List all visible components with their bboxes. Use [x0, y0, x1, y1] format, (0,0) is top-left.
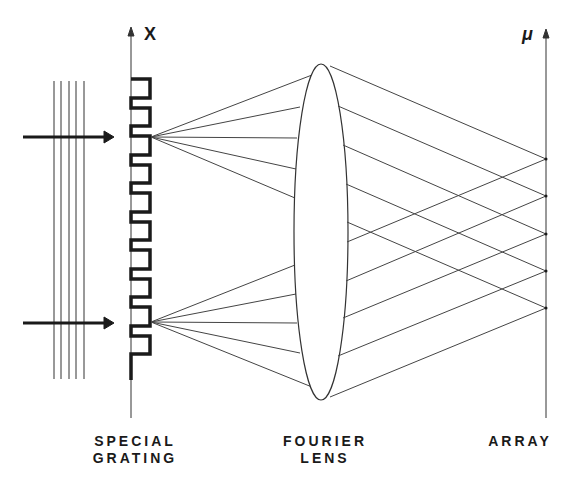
array-axis-label: μ	[522, 24, 533, 45]
focused-rays-lower	[330, 159, 546, 397]
fourier-lens	[294, 64, 348, 400]
diffracted-rays-upper	[151, 75, 312, 198]
array-label-line1: ARRAY	[465, 433, 572, 450]
lens-label: FOURIER LENS	[265, 433, 385, 467]
grating-profile	[131, 79, 150, 380]
incident-wavefronts	[54, 81, 84, 379]
lens-label-line1: FOURIER	[265, 433, 385, 450]
lens-label-line2: LENS	[265, 450, 385, 467]
grating-axis-label: X	[144, 24, 156, 45]
grating-label-line2: GRATING	[70, 450, 200, 467]
diffracted-rays-lower	[151, 265, 312, 387]
grating-label: SPECIAL GRATING	[70, 433, 200, 467]
optics-diagram	[0, 0, 572, 480]
array-label: ARRAY	[465, 433, 572, 450]
focused-rays-upper	[330, 66, 546, 308]
grating-label-line1: SPECIAL	[70, 433, 200, 450]
array-axis	[543, 29, 549, 418]
